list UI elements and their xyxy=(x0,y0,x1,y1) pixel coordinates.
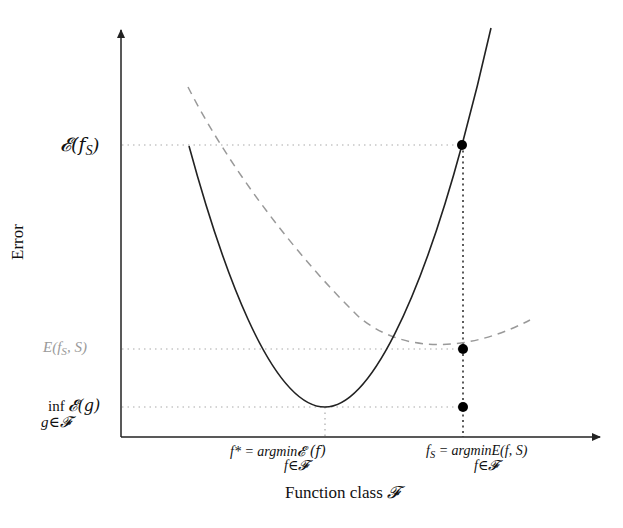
empirical-error-curve xyxy=(188,87,530,345)
x-label-f-star-lhs: f* = xyxy=(230,444,257,459)
x-label-f-star-under-text: f∈𝓕 xyxy=(284,458,308,473)
marker-emp-error-fs xyxy=(458,344,468,354)
x-label-f-s-op: argmin xyxy=(452,443,492,458)
true-error-curve xyxy=(189,28,491,407)
y-label-emp-error-main: E(f xyxy=(43,339,61,355)
y-label-inf-expr: 𝓔(g) xyxy=(68,396,100,415)
y-label-inf-under: g∈𝓕 xyxy=(41,413,71,431)
x-label-f-s-under-text: f∈𝓕 xyxy=(474,458,498,473)
x-label-f-star-under: f∈𝓕 xyxy=(284,457,308,474)
y-label-true-error-fs: 𝓔(fS) xyxy=(60,133,99,159)
x-label-f-s-under: f∈𝓕 xyxy=(474,457,498,474)
marker-true-error-fs xyxy=(457,140,467,150)
x-label-f-star: f* = argmin𝓔 (f) xyxy=(230,443,326,460)
x-label-f-s-expr: E(f, S) xyxy=(492,443,528,458)
y-axis-label: Error xyxy=(8,224,28,260)
y-label-true-error-sub: S xyxy=(85,142,92,158)
x-axis-label-symbol: 𝓕 xyxy=(387,482,400,502)
y-label-inf-under-text: g∈𝓕 xyxy=(41,414,71,430)
x-label-f-s-eq: = xyxy=(435,443,451,458)
marker-inf-error xyxy=(458,402,468,412)
y-label-true-error-close: ) xyxy=(93,134,99,155)
x-axis-label: Function class 𝓕 xyxy=(285,482,400,503)
y-axis-label-text: Error xyxy=(8,224,27,260)
y-label-inf-text: inf xyxy=(48,398,65,414)
y-label-emp-error-rest: , S) xyxy=(67,339,87,355)
y-label-true-error-main: 𝓔(f xyxy=(60,133,85,155)
x-axis-label-text: Function class xyxy=(285,483,387,502)
y-label-emp-error-fs: E(fS, S) xyxy=(43,339,87,357)
